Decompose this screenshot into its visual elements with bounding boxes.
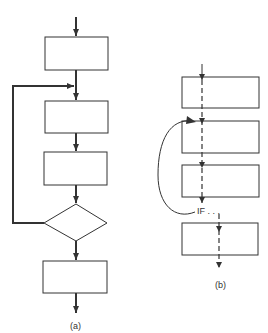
condition-label: IF . . . — [197, 206, 220, 216]
process-box-1 — [45, 37, 108, 70]
block-box-3 — [182, 165, 259, 197]
block-box-2 — [182, 121, 259, 153]
jump-back-curve — [158, 121, 195, 214]
diagram-b — [158, 64, 259, 268]
diagram-a — [13, 17, 108, 313]
flowchart-canvas — [0, 0, 268, 333]
process-box-2 — [45, 101, 108, 133]
block-box-1 — [182, 77, 259, 108]
diagram-a-caption: (a) — [70, 321, 81, 331]
diagram-b-caption: (b) — [215, 280, 226, 290]
decision-diamond — [44, 204, 107, 241]
process-box-3 — [44, 152, 107, 185]
process-box-5 — [43, 261, 107, 293]
